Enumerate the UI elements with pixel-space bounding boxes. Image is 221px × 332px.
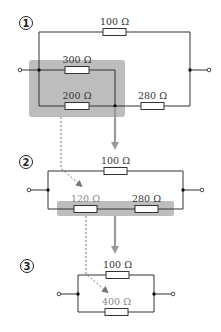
label-200: 200 Ω — [62, 90, 91, 101]
terminal-right — [207, 68, 211, 72]
resistor-100 — [103, 29, 126, 36]
node — [188, 68, 191, 71]
node — [37, 68, 40, 71]
resistor-400 — [105, 309, 128, 316]
resistor-280 — [141, 103, 164, 110]
step-1-badge: 1 — [20, 17, 33, 30]
resistor-200 — [65, 103, 89, 110]
dashed-arrow-1-2 — [61, 117, 80, 185]
step-3-number: 3 — [24, 261, 31, 272]
node — [46, 188, 49, 191]
terminal-right — [200, 188, 204, 192]
terminal-left — [57, 292, 61, 296]
terminal-left — [18, 68, 22, 72]
resistor-100 — [104, 168, 127, 175]
resistor-300 — [65, 67, 89, 74]
terminal-left — [27, 188, 31, 192]
step-1-circuit: 1 — [18, 16, 211, 117]
label-280: 280 Ω — [132, 193, 161, 204]
label-100: 100 Ω — [100, 16, 129, 27]
node — [152, 292, 155, 295]
label-400: 400 Ω — [102, 296, 131, 307]
node — [76, 292, 79, 295]
label-300: 300 Ω — [62, 54, 91, 65]
node — [181, 188, 184, 191]
label-280: 280 Ω — [138, 90, 167, 101]
dashed-arrow-2-3 — [86, 216, 106, 291]
step-3-circuit: 3 100 Ω 400 Ω — [21, 259, 175, 316]
circuit-reduction-diagram: 1 — [0, 0, 221, 332]
step-2-badge: 2 — [20, 156, 33, 169]
step-1-number: 1 — [23, 18, 30, 29]
resistor-120 — [74, 206, 97, 213]
step-2-circuit: 2 100 Ω 120 Ω 280 Ω — [20, 155, 204, 216]
label-100: 100 Ω — [101, 155, 130, 166]
label-100: 100 Ω — [103, 259, 132, 270]
step-2-number: 2 — [23, 157, 30, 168]
terminal-right — [171, 292, 175, 296]
label-120: 120 Ω — [71, 193, 100, 204]
resistor-280 — [135, 206, 158, 213]
step-3-badge: 3 — [21, 260, 34, 273]
resistor-100 — [106, 272, 129, 279]
